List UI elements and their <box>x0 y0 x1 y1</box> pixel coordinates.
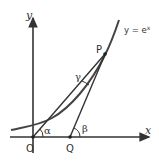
angle-beta-arc <box>74 128 80 137</box>
point-O-label: O <box>26 143 34 154</box>
tangent-line-QP <box>70 52 106 137</box>
exponential-curve <box>11 20 119 130</box>
diagram-canvas: y x y = ex P O Q α β γ <box>0 0 159 168</box>
angle-gamma-label: γ <box>75 71 81 82</box>
angle-alpha-label: α <box>44 125 51 136</box>
angle-beta-label: β <box>82 123 88 134</box>
point-P <box>103 52 107 56</box>
y-axis-label: y <box>25 9 33 22</box>
point-O <box>31 135 35 139</box>
point-P-label: P <box>96 44 102 55</box>
point-Q-label: Q <box>66 143 74 154</box>
x-axis-label: x <box>145 124 152 137</box>
point-Q <box>68 135 72 139</box>
angle-alpha-arc <box>40 129 43 137</box>
curve-label: y = ex <box>124 24 151 35</box>
